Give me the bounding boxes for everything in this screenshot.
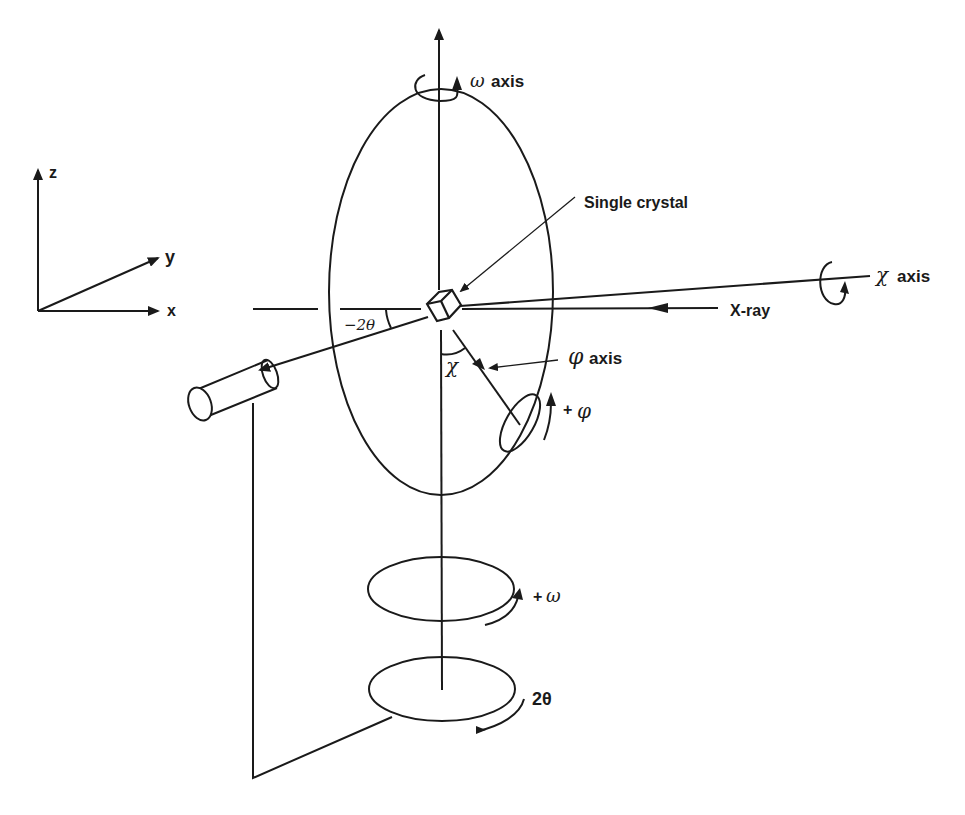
omega-axis-symbol: ω <box>470 70 485 91</box>
phi-axis-symbol: φ <box>568 344 584 369</box>
xray-arrow-icon <box>648 303 668 313</box>
omega-rotation-icon <box>415 75 457 101</box>
plus-omega-sign: + <box>533 588 542 605</box>
omega-axis-lower <box>441 330 442 690</box>
plus-omega-symbol: ω <box>546 585 561 606</box>
minus-two-theta-label: −2θ <box>344 316 375 334</box>
xray-beam <box>462 308 718 309</box>
two-theta-label: 2θ <box>532 689 552 709</box>
chi-axis-line <box>460 276 870 306</box>
diffractometer-diagram: z y x ω axis Single crystal χ axis X-ray… <box>0 0 965 815</box>
chi-axis-symbol: χ <box>874 263 890 287</box>
chi-rotation-icon <box>820 262 845 304</box>
single-crystal-leader <box>461 197 575 291</box>
chi-angle-label: χ <box>444 354 460 378</box>
xray-label: X-ray <box>730 302 770 319</box>
x-axis-label: x <box>167 302 176 319</box>
detector-arm <box>253 403 392 778</box>
coordinate-axes <box>38 170 158 311</box>
single-crystal-cube <box>427 290 461 321</box>
plus-phi-rotation-arc <box>544 403 551 440</box>
two-theta-angle-arc <box>386 310 391 328</box>
y-axis-arrow <box>38 258 158 311</box>
omega-axis-label: axis <box>491 72 524 91</box>
y-axis-label: y <box>165 247 175 267</box>
plus-omega-rotation-arc <box>485 597 518 625</box>
single-crystal-label: Single crystal <box>584 194 688 211</box>
phi-axis-label: axis <box>589 349 622 368</box>
z-axis-label: z <box>49 164 57 181</box>
plus-phi-symbol: φ <box>577 399 591 423</box>
phi-axis-line <box>453 330 520 425</box>
chi-axis-label: axis <box>897 267 930 286</box>
phi-axis-leader <box>490 360 558 368</box>
plus-phi-sign: + <box>563 401 572 418</box>
